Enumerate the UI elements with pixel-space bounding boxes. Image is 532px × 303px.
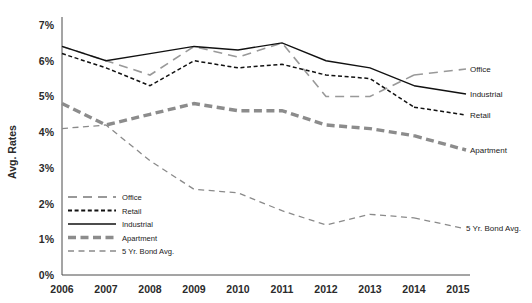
end-label-5-yr-bond-avg: 5 Yr. Bond Avg. [466,224,521,233]
y-tick-1pct: 1% [39,233,55,245]
y-tick-2pct: 2% [39,198,55,210]
x-tick-2007: 2007 [94,283,118,295]
end-label-retail: Retail [470,111,491,120]
y-tick-3pct: 3% [39,162,55,174]
leader-line-5-yr-bond-avg [414,218,462,228]
x-tick-2013: 2013 [358,283,382,295]
end-label-office: Office [470,65,491,74]
end-label-apartment: Apartment [470,146,508,155]
x-tick-2009: 2009 [182,283,206,295]
x-tick-2008: 2008 [138,283,162,295]
x-tick-2010: 2010 [226,283,250,295]
y-tick-4pct: 4% [39,126,55,138]
legend-label-5-yr-bond-avg: 5 Yr. Bond Avg. [122,247,174,256]
chart-legend: OfficeRetailIndustrialApartment5 Yr. Bon… [68,193,174,256]
legend-label-retail: Retail [122,207,142,216]
y-tick-5pct: 5% [39,90,55,102]
legend-label-apartment: Apartment [122,234,158,243]
chart-container: 0%1%2%3%4%5%6%7% 20062007200820092010201… [0,0,532,303]
y-axis-title: Avg. Rates [6,125,18,179]
x-axis-tick-labels: 2006200720082009201020112012201320142015 [50,283,470,295]
y-tick-0pct: 0% [39,269,55,281]
x-tick-2012: 2012 [314,283,338,295]
legend-label-office: Office [122,193,142,202]
x-tick-2015: 2015 [446,283,470,295]
x-tick-2006: 2006 [50,283,74,295]
series-line-retail [62,54,414,108]
x-tick-2011: 2011 [271,283,294,295]
y-tick-6pct: 6% [39,55,55,67]
x-tick-2014: 2014 [402,283,426,295]
leader-line-apartment [414,136,466,150]
y-tick-7pct: 7% [39,19,55,31]
series-line-office [62,43,414,97]
leader-line-office [414,69,466,75]
leader-line-retail [414,107,466,115]
series-line-industrial [62,43,414,86]
line-chart: 0%1%2%3%4%5%6%7% 20062007200820092010201… [0,0,532,303]
end-label-industrial: Industrial [470,90,503,99]
series-line-apartment [62,104,414,136]
leader-line-industrial [414,86,466,94]
series-end-labels: OfficeRetailIndustrialApartment5 Yr. Bon… [414,65,521,233]
y-axis-tick-labels: 0%1%2%3%4%5%6%7% [39,19,55,281]
legend-label-industrial: Industrial [122,220,153,229]
